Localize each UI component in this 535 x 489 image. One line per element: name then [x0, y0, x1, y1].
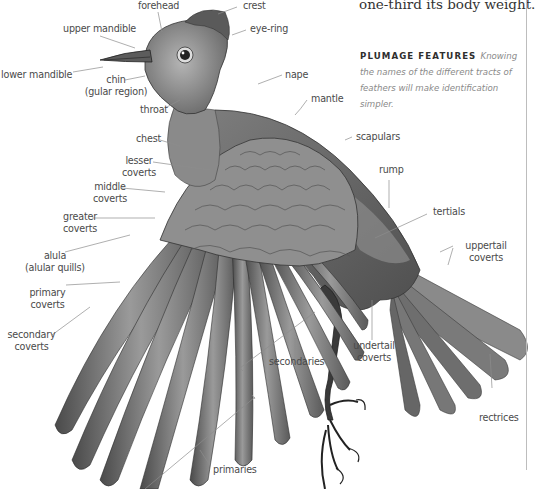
label-secondary-coverts: secondary coverts — [4, 329, 59, 353]
plumage-features-box: PLUMAGE FEATURES Knowing the names of th… — [360, 48, 530, 112]
label-throat: throat — [140, 104, 168, 116]
label-greater-coverts: greater coverts — [55, 211, 105, 235]
feature-heading: PLUMAGE FEATURES — [360, 51, 481, 61]
label-alula: alula (alular quills) — [20, 250, 90, 274]
chest — [168, 105, 221, 186]
head — [145, 20, 228, 114]
label-chest: chest — [136, 133, 161, 145]
label-lesser-coverts: lesser coverts — [114, 155, 164, 179]
label-upper-mandible: upper mandible — [63, 23, 136, 35]
label-rump: rump — [379, 164, 404, 176]
label-eye-ring: eye-ring — [250, 23, 288, 35]
label-undertail-coverts: undertail coverts — [352, 340, 396, 364]
label-mantle: mantle — [311, 93, 343, 105]
intro-text: one-third its body weight. — [359, 0, 535, 12]
label-middle-coverts: middle coverts — [85, 181, 135, 205]
label-secondaries: secondaries — [269, 356, 324, 368]
page-rule — [526, 0, 527, 470]
label-scapulars: scapulars — [356, 131, 400, 143]
label-lower-mandible: lower mandible — [1, 69, 72, 81]
label-nape: nape — [285, 69, 308, 81]
beak — [100, 50, 152, 62]
label-chin: chin (gular region) — [76, 74, 156, 98]
label-tertials: tertials — [433, 206, 465, 218]
label-crest: crest — [243, 0, 266, 12]
label-forehead: forehead — [138, 0, 179, 12]
label-primary-coverts: primary coverts — [25, 287, 70, 311]
label-uppertail-coverts: uppertail coverts — [456, 240, 516, 264]
label-rectrices: rectrices — [479, 412, 519, 424]
label-primaries: primaries — [213, 464, 257, 476]
